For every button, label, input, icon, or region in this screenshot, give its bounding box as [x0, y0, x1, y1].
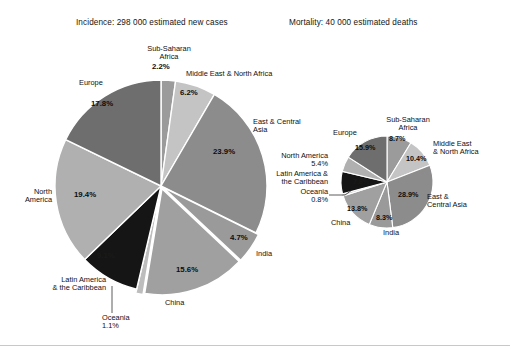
pct-india-incidence: 4.7% — [230, 233, 248, 242]
label-china-incidence: China — [165, 299, 184, 307]
pct-china-incidence: 15.6% — [176, 265, 198, 274]
label-oceania-incidence: Oceania 1.1% — [102, 314, 130, 331]
pct-europe-mortality: 15.9% — [355, 143, 375, 152]
pct-latin-america-caribbean-mortality: 7.8% — [353, 177, 369, 186]
incidence-pie-slices — [55, 80, 267, 295]
label-india-mortality: India — [383, 229, 399, 237]
pct-india-mortality: 8.3% — [376, 213, 392, 222]
label-sub-saharan-africa-incidence: Sub-Saharan Africa — [138, 45, 200, 62]
label-east-central-asia-incidence: East & Central Asia — [253, 118, 301, 135]
label-latin-america-caribbean-incidence: Latin America & the Caribbean — [10, 276, 106, 293]
pct-sub-saharan-africa-incidence: 2.2% — [152, 62, 170, 71]
pct-china-mortality: 13.8% — [347, 204, 367, 213]
pct-east-central-asia-incidence: 23.9% — [213, 147, 235, 156]
label-china-mortality: China — [331, 219, 350, 227]
pct-north-america-incidence: 19.4% — [74, 190, 96, 199]
label-middle-east-north-africa-mortality: Middle East & North Africa — [433, 140, 479, 157]
label-sub-saharan-africa-mortality: Sub-Saharan Africa — [378, 116, 438, 133]
pct-east-central-asia-mortality: 28.9% — [398, 190, 418, 199]
label-middle-east-north-africa-incidence: Middle East & North Africa — [186, 70, 272, 78]
pct-latin-america-caribbean-incidence: 9.1% — [97, 251, 115, 260]
pct-europe-incidence: 17.8% — [91, 99, 113, 108]
label-oceania-mortality: Oceania 0.8% — [262, 188, 328, 205]
label-india-incidence: India — [256, 250, 272, 258]
label-north-america-mortality: North America 5.4% — [255, 152, 328, 169]
label-north-america-incidence: North America — [0, 188, 52, 205]
pct-middle-east-north-africa-mortality: 10.4% — [406, 154, 426, 163]
label-east-central-asia-mortality: East & Central Asia — [427, 193, 467, 210]
label-europe-incidence: Europe — [79, 79, 103, 87]
pie-chart-figure: Incidence: 298 000 estimated new cases M… — [0, 0, 510, 346]
pct-middle-east-north-africa-incidence: 6.2% — [180, 88, 198, 97]
label-latin-america-caribbean-mortality: Latin America & the Caribbean — [252, 170, 328, 187]
pct-sub-saharan-africa-mortality: 8.7% — [389, 134, 405, 143]
label-europe-mortality: Europe — [333, 129, 357, 137]
